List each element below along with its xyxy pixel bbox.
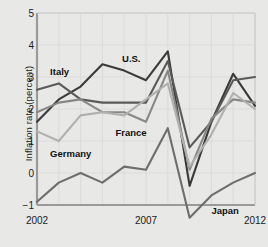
x-tick-label: 2007 xyxy=(135,215,157,226)
y-tick-label: 0 xyxy=(20,168,34,179)
y-tick-label: 4 xyxy=(20,40,34,51)
series-label-germany: Germany xyxy=(50,148,91,159)
y-axis-tick-labels: 543210−1 xyxy=(0,0,34,247)
series-label-italy: Italy xyxy=(50,66,69,77)
series-label-us: U.S. xyxy=(122,53,140,64)
y-tick-label: −1 xyxy=(20,200,34,211)
inflation-rate-line-chart: Inflation rate (percent) 543210−1 200220… xyxy=(0,0,268,247)
y-tick-label: 5 xyxy=(20,8,34,19)
y-tick-label: 3 xyxy=(20,72,34,83)
y-tick-label: 2 xyxy=(20,104,34,115)
x-tick-label: 2002 xyxy=(26,215,48,226)
x-tick-label: 2012 xyxy=(244,215,266,226)
series-label-france: France xyxy=(115,127,146,138)
series-label-japan: Japan xyxy=(211,205,238,216)
y-tick-label: 1 xyxy=(20,136,34,147)
